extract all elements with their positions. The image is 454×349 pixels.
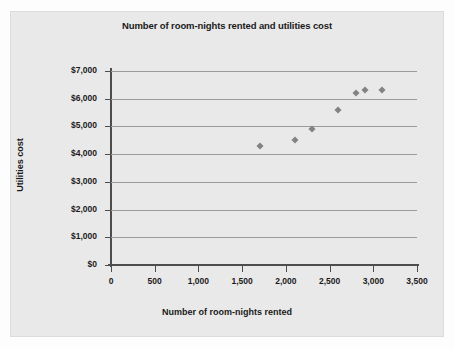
gridline-horizontal xyxy=(111,126,417,127)
gridline-horizontal xyxy=(111,182,417,183)
x-tick-mark xyxy=(198,266,199,272)
y-tick-label: $4,000 xyxy=(37,148,97,158)
x-tick-label: 0 xyxy=(86,276,136,286)
y-tick-label: $6,000 xyxy=(37,93,97,103)
y-tick-label: $3,000 xyxy=(37,176,97,186)
x-tick-label: 1,500 xyxy=(217,276,267,286)
y-tick-label: $0 xyxy=(37,259,97,269)
data-point xyxy=(361,87,368,94)
y-tick-mark xyxy=(105,99,111,100)
x-tick-label: 3,000 xyxy=(348,276,398,286)
gridline-horizontal xyxy=(111,71,417,72)
gridline-horizontal xyxy=(111,210,417,211)
data-point xyxy=(291,137,298,144)
x-tick-mark xyxy=(242,266,243,272)
data-point xyxy=(352,90,359,97)
y-tick-label: $7,000 xyxy=(37,65,97,75)
gridline-horizontal xyxy=(111,99,417,100)
x-tick-label: 2,500 xyxy=(305,276,355,286)
y-tick-label: $2,000 xyxy=(37,204,97,214)
x-tick-mark xyxy=(330,266,331,272)
data-point xyxy=(335,106,342,113)
y-tick-mark xyxy=(105,182,111,183)
y-tick-mark xyxy=(105,237,111,238)
x-tick-mark xyxy=(286,266,287,272)
gridline-horizontal xyxy=(111,154,417,155)
x-axis-title: Number of room-nights rented xyxy=(0,307,454,317)
data-point xyxy=(378,87,385,94)
x-tick-mark xyxy=(417,266,418,272)
x-tick-label: 500 xyxy=(130,276,180,286)
y-tick-label: $1,000 xyxy=(37,231,97,241)
gridline-horizontal xyxy=(111,237,417,238)
x-tick-label: 2,000 xyxy=(261,276,311,286)
chart-title: Number of room-nights rented and utiliti… xyxy=(0,20,454,31)
x-tick-mark xyxy=(111,266,112,272)
plot-area xyxy=(111,71,417,265)
y-axis-title: Utilities cost xyxy=(15,120,25,210)
x-tick-mark xyxy=(373,266,374,272)
data-point xyxy=(256,142,263,149)
y-tick-mark xyxy=(105,210,111,211)
y-tick-mark xyxy=(105,71,111,72)
x-tick-mark xyxy=(155,266,156,272)
x-tick-label: 3,500 xyxy=(392,276,442,286)
y-tick-mark xyxy=(105,126,111,127)
x-tick-label: 1,000 xyxy=(173,276,223,286)
chart-figure: Number of room-nights rented and utiliti… xyxy=(0,0,454,349)
y-tick-label: $5,000 xyxy=(37,120,97,130)
y-tick-mark xyxy=(105,154,111,155)
